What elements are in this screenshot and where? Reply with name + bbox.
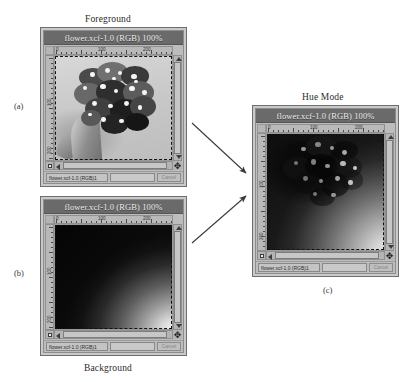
hue-mode-caption: Hue Mode bbox=[302, 92, 344, 102]
statusbar-cancel-label: Cancel bbox=[162, 344, 176, 350]
horizontal-scrollbar[interactable] bbox=[54, 161, 173, 170]
arrow-foreground-to-result bbox=[192, 123, 246, 173]
foreground-title-text: flower.xcf-1.0 (RGB) 100% bbox=[65, 33, 163, 43]
statusbar-cancel-label: Cancel bbox=[374, 265, 388, 271]
background-title-text: flower.xcf-1.0 (RGB) 100% bbox=[65, 202, 163, 212]
statusbar-filename-text: flower.xcf-1.0 (RGB)1 bbox=[261, 265, 309, 271]
navigation-corner[interactable]: ✥ bbox=[173, 161, 182, 170]
move-cross-icon: ✥ bbox=[386, 252, 394, 260]
flower-photo bbox=[55, 56, 172, 160]
hue-composite-image bbox=[267, 134, 384, 250]
move-cross-icon: ✥ bbox=[174, 331, 182, 339]
background-canvas[interactable] bbox=[54, 224, 173, 330]
horizontal-ruler: 0 100 200 bbox=[54, 215, 173, 224]
navigation-corner[interactable]: ✥ bbox=[385, 251, 394, 260]
background-window[interactable]: flower.xcf-1.0 (RGB) 100% 0 100 200 bbox=[40, 196, 187, 356]
result-title-text: flower.xcf-1.0 (RGB) 100% bbox=[277, 111, 375, 121]
vertical-scrollbar-thumb[interactable] bbox=[174, 62, 181, 154]
vertical-ruler: 100 200 bbox=[257, 133, 266, 251]
navigation-corner[interactable]: ✥ bbox=[173, 330, 182, 339]
ruler-origin-corner[interactable] bbox=[45, 215, 54, 224]
statusbar-progress bbox=[322, 263, 367, 272]
statusbar-cancel-button[interactable]: Cancel bbox=[369, 263, 393, 272]
quickmask-toggle[interactable] bbox=[257, 251, 266, 260]
foreground-titlebar[interactable]: flower.xcf-1.0 (RGB) 100% bbox=[44, 31, 183, 45]
background-statusbar: flower.xcf-1.0 (RGB)1 Cancel bbox=[44, 340, 183, 352]
horizontal-ruler: 0 100 200 bbox=[266, 124, 385, 133]
statusbar-cancel-label: Cancel bbox=[162, 175, 176, 181]
vertical-ruler: 100 200 bbox=[45, 55, 54, 161]
ruler-origin-corner[interactable] bbox=[257, 124, 266, 133]
vertical-scrollbar[interactable] bbox=[173, 224, 182, 330]
horizontal-ruler: 0 100 200 bbox=[54, 46, 173, 55]
background-caption: Background bbox=[84, 363, 132, 373]
result-window[interactable]: flower.xcf-1.0 (RGB) 100% 0 100 200 bbox=[252, 105, 399, 277]
horizontal-scrollbar-thumb[interactable] bbox=[63, 162, 167, 169]
panel-label-c: (c) bbox=[323, 285, 332, 295]
panel-label-a: (a) bbox=[14, 101, 23, 111]
statusbar-filename: flower.xcf-1.0 (RGB)1 bbox=[258, 263, 320, 272]
statusbar-filename: flower.xcf-1.0 (RGB)1 bbox=[46, 173, 108, 182]
foreground-canvas[interactable] bbox=[54, 55, 173, 161]
statusbar-filename: flower.xcf-1.0 (RGB)1 bbox=[46, 342, 108, 351]
quickmask-toggle[interactable] bbox=[45, 330, 54, 339]
statusbar-cancel-button[interactable]: Cancel bbox=[157, 342, 181, 351]
background-titlebar[interactable]: flower.xcf-1.0 (RGB) 100% bbox=[44, 200, 183, 214]
ruler-origin-corner[interactable] bbox=[45, 46, 54, 55]
foreground-caption: Foreground bbox=[85, 14, 131, 24]
statusbar-filename-text: flower.xcf-1.0 (RGB)1 bbox=[49, 175, 97, 181]
result-titlebar[interactable]: flower.xcf-1.0 (RGB) 100% bbox=[256, 109, 395, 123]
arrow-background-to-result bbox=[192, 196, 246, 243]
horizontal-scrollbar[interactable] bbox=[54, 330, 173, 339]
horizontal-scrollbar-thumb[interactable] bbox=[275, 252, 379, 259]
statusbar-progress bbox=[110, 173, 155, 182]
vertical-scrollbar[interactable] bbox=[173, 55, 182, 161]
foreground-statusbar: flower.xcf-1.0 (RGB)1 Cancel bbox=[44, 171, 183, 183]
move-cross-icon: ✥ bbox=[174, 162, 182, 170]
statusbar-filename-text: flower.xcf-1.0 (RGB)1 bbox=[49, 344, 97, 350]
horizontal-scrollbar-thumb[interactable] bbox=[63, 331, 167, 338]
vertical-scrollbar-thumb[interactable] bbox=[174, 231, 181, 323]
gradient-image bbox=[55, 225, 172, 329]
quickmask-toggle[interactable] bbox=[45, 161, 54, 170]
statusbar-cancel-button[interactable]: Cancel bbox=[157, 173, 181, 182]
vertical-ruler: 100 200 bbox=[45, 224, 54, 330]
foreground-window[interactable]: flower.xcf-1.0 (RGB) 100% 0 100 200 bbox=[40, 27, 187, 187]
vertical-scrollbar[interactable] bbox=[385, 133, 394, 251]
vertical-scrollbar-thumb[interactable] bbox=[386, 140, 393, 244]
panel-label-b: (b) bbox=[14, 268, 24, 278]
result-canvas[interactable] bbox=[266, 133, 385, 251]
statusbar-progress bbox=[110, 342, 155, 351]
result-statusbar: flower.xcf-1.0 (RGB)1 Cancel bbox=[256, 261, 395, 273]
horizontal-scrollbar[interactable] bbox=[266, 251, 385, 260]
